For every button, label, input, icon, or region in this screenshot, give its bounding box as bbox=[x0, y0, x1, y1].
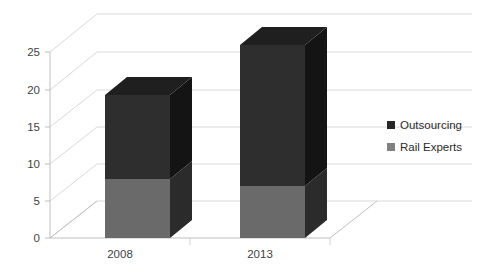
y-tick-label-20: 20 bbox=[27, 84, 40, 96]
x-axis-label-2013: 2013 bbox=[247, 248, 273, 260]
y-tick-label-10: 10 bbox=[27, 158, 40, 170]
bar-group-2013[interactable] bbox=[240, 27, 327, 238]
y-tick-label-5: 5 bbox=[34, 195, 40, 207]
y-tick-label-0: 0 bbox=[34, 232, 40, 244]
bar-2013-outsourcing-front[interactable] bbox=[240, 45, 305, 186]
bar-group-2008[interactable] bbox=[105, 77, 192, 238]
bar-2008-rail-experts-front[interactable] bbox=[105, 179, 170, 238]
bar-2008-outsourcing-side[interactable] bbox=[170, 77, 192, 179]
bar-2013-outsourcing-side[interactable] bbox=[305, 27, 327, 186]
chart-container: 25 20 15 10 5 0 bbox=[0, 0, 484, 273]
legend-label-rail-experts: Rail Experts bbox=[400, 141, 462, 153]
y-tick-label-15: 15 bbox=[27, 121, 40, 133]
bar-2008-outsourcing-front[interactable] bbox=[105, 95, 170, 179]
legend-marker-rail-experts[interactable] bbox=[387, 143, 395, 151]
stacked-column-3d-chart: 25 20 15 10 5 0 bbox=[0, 0, 484, 273]
y-tick-label-25: 25 bbox=[27, 46, 40, 58]
bar-2013-rail-experts-front[interactable] bbox=[240, 186, 305, 238]
legend-label-outsourcing: Outsourcing bbox=[400, 119, 462, 131]
legend-marker-outsourcing[interactable] bbox=[387, 121, 395, 129]
x-axis-label-2008: 2008 bbox=[107, 248, 133, 260]
